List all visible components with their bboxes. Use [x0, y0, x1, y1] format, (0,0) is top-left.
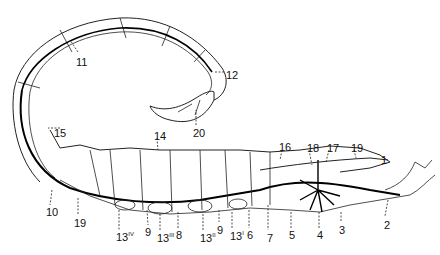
tail-cord [22, 28, 212, 90]
label-15: 15 [54, 128, 66, 139]
label-20: 20 [193, 128, 205, 139]
label-14: 14 [154, 131, 166, 142]
label-10: 10 [46, 207, 58, 218]
telson [150, 91, 214, 121]
organ [188, 200, 212, 212]
label-19a: 19 [74, 218, 86, 229]
leader-lines [48, 40, 388, 230]
organ [148, 202, 172, 214]
label-11: 11 [76, 57, 87, 68]
label-19b: 19 [351, 143, 363, 154]
label-17: 17 [327, 143, 339, 154]
label-7: 7 [267, 233, 273, 244]
label-13i: 13I [230, 230, 244, 242]
label-9a: 9 [145, 227, 151, 238]
pedipalp [385, 160, 435, 195]
label-13ii: 13II [200, 232, 216, 244]
label-3: 3 [339, 225, 345, 236]
label-6: 6 [247, 230, 253, 241]
label-13iv: 13IV [116, 231, 134, 243]
label-9b: 9 [217, 225, 223, 236]
tail-outline [13, 18, 226, 182]
label-18: 18 [307, 143, 319, 154]
nerve-star [300, 160, 340, 212]
label-4: 4 [317, 230, 323, 241]
label-13iii: 13III [157, 232, 174, 244]
label-8: 8 [176, 230, 182, 241]
label-5: 5 [289, 230, 295, 241]
label-16: 16 [279, 142, 291, 153]
label-12: 12 [226, 70, 238, 81]
label-1: 1 [381, 155, 387, 166]
tail-inner-outline [29, 32, 212, 178]
label-2: 2 [384, 220, 390, 231]
organ [229, 199, 247, 209]
